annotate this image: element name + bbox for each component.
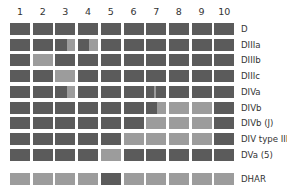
genotype-row-cell <box>10 23 30 35</box>
light-segment <box>192 133 212 145</box>
genotype-row-cell <box>169 133 189 145</box>
column-label: 7 <box>146 6 166 17</box>
dark-segment <box>55 39 67 51</box>
genotype-row-cell <box>33 149 53 161</box>
dark-segment <box>33 86 53 98</box>
genotype-row-cell <box>55 39 75 51</box>
light-segment <box>101 149 121 161</box>
dark-segment <box>78 117 98 129</box>
dark-segment <box>33 149 53 161</box>
genotype-row-cell <box>146 133 166 145</box>
genotype-row-cell <box>214 23 234 35</box>
genotype-row-cell <box>146 86 166 98</box>
column-label: 4 <box>78 6 98 17</box>
dhar-row-cell <box>192 173 212 185</box>
column-label: 5 <box>101 6 121 17</box>
dark-segment <box>55 86 67 98</box>
genotype-row-cell <box>78 133 98 145</box>
row-label: DHAR <box>241 173 266 185</box>
genotype-row-cell <box>33 54 53 66</box>
dark-segment <box>55 149 75 161</box>
dark-segment <box>214 102 234 114</box>
genotype-row-cell <box>124 117 144 129</box>
genotype-row-cell <box>169 39 189 51</box>
genotype-row-cell <box>101 54 121 66</box>
genotype-row-cell <box>10 39 30 51</box>
genotype-row-cell <box>10 102 30 114</box>
light-segment <box>10 173 30 185</box>
genotype-row-cell <box>169 23 189 35</box>
dark-segment <box>214 54 234 66</box>
genotype-row-cell <box>146 70 166 82</box>
dark-segment <box>33 39 53 51</box>
dark-segment <box>124 117 144 129</box>
genotype-row-cell <box>101 86 121 98</box>
row-label: DIVb <box>241 102 262 114</box>
genotype-row-cell <box>10 117 30 129</box>
dark-segment <box>214 149 234 161</box>
genotype-row-cell <box>78 39 98 51</box>
dhar-row-cell <box>101 173 121 185</box>
light-segment <box>214 173 234 185</box>
genotype-row-cell <box>124 149 144 161</box>
dark-segment <box>101 23 121 35</box>
column-label: 1 <box>10 6 30 17</box>
row-label: DIIIc <box>241 70 260 82</box>
genotype-row-cell <box>55 86 75 98</box>
dark-segment <box>146 70 166 82</box>
genotype-row-cell <box>124 86 144 98</box>
light-segment <box>33 173 53 185</box>
dark-segment <box>78 149 98 161</box>
dhar-row-cell <box>214 173 234 185</box>
dark-segment <box>169 23 189 35</box>
dark-segment <box>10 86 30 98</box>
genotype-row-cell <box>55 54 75 66</box>
dark-segment <box>146 102 157 114</box>
genotype-row-cell <box>10 86 30 98</box>
row-label: DIIIa <box>241 39 261 51</box>
dark-segment <box>192 70 212 82</box>
dark-segment <box>33 23 53 35</box>
light-segment <box>169 133 189 145</box>
dark-segment <box>101 133 121 145</box>
dark-segment <box>214 133 234 145</box>
dark-segment <box>169 149 189 161</box>
dark-segment <box>10 102 30 114</box>
light-segment <box>192 102 212 114</box>
genotype-row-cell <box>78 23 98 35</box>
genotype-row-cell <box>146 117 166 129</box>
genotype-row-cell <box>10 133 30 145</box>
dark-segment <box>146 54 166 66</box>
dark-segment <box>146 39 166 51</box>
light-segment <box>192 173 212 185</box>
dark-segment <box>10 23 30 35</box>
genotype-row-cell <box>55 117 75 129</box>
dark-segment <box>10 117 30 129</box>
dark-segment <box>78 102 98 114</box>
dark-segment <box>124 86 144 98</box>
row-label: DIVb (J) <box>241 117 273 129</box>
column-label: 10 <box>214 6 234 17</box>
dark-segment <box>55 54 75 66</box>
genotype-row-cell <box>101 39 121 51</box>
genotype-row-cell <box>192 54 212 66</box>
dark-segment <box>55 23 75 35</box>
dark-segment <box>192 149 212 161</box>
dark-segment <box>101 102 121 114</box>
dark-segment <box>78 86 98 98</box>
dark-segment <box>101 54 121 66</box>
light-segment <box>146 173 166 185</box>
dark-segment <box>214 23 234 35</box>
dark-segment <box>214 39 234 51</box>
light-segment <box>146 133 166 145</box>
column-label: 3 <box>55 6 75 17</box>
dark-segment <box>101 70 121 82</box>
genotype-row-cell <box>169 102 189 114</box>
genotype-row-cell <box>124 23 144 35</box>
genotype-row-cell <box>214 86 234 98</box>
genotype-row-cell <box>146 39 166 51</box>
light-segment <box>89 39 98 51</box>
row-label: D <box>241 23 248 35</box>
dark-segment <box>33 102 53 114</box>
genotype-row-cell <box>146 23 166 35</box>
